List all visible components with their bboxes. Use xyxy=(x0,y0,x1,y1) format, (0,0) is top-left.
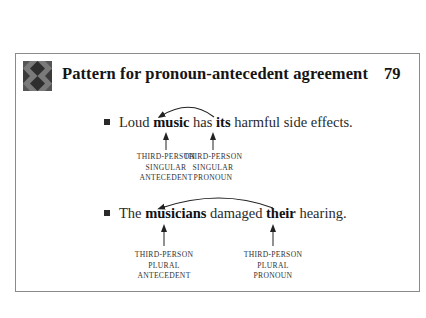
label-line: PRONOUN xyxy=(228,271,318,282)
label-line: PLURAL xyxy=(119,261,209,272)
pronoun-word: its xyxy=(216,114,231,130)
example-sentence-1: Loud music has its harmful side effects. xyxy=(104,114,353,131)
pronoun-label-1: THIRD-PERSON SINGULAR PRONOUN xyxy=(168,152,258,184)
label-line: THIRD-PERSON xyxy=(228,250,318,261)
argyle-pattern-icon xyxy=(23,61,52,91)
sentence-text: hearing. xyxy=(296,205,347,221)
antecedent-word: music xyxy=(153,114,189,130)
label-line: ANTECEDENT xyxy=(119,271,209,282)
label-line: THIRD-PERSON xyxy=(119,250,209,261)
sentence-text: Loud xyxy=(119,114,153,130)
label-line: SINGULAR xyxy=(168,163,258,174)
square-bullet-icon xyxy=(104,119,110,125)
page-title: Pattern for pronoun-antecedent agreement xyxy=(62,64,368,84)
sentence-text: damaged xyxy=(206,205,266,221)
label-line: PLURAL xyxy=(228,261,318,272)
pronoun-label-2: THIRD-PERSON PLURAL PRONOUN xyxy=(228,250,318,282)
sentence-text: harmful side effects. xyxy=(231,114,353,130)
antecedent-label-2: THIRD-PERSON PLURAL ANTECEDENT xyxy=(119,250,209,282)
label-line: THIRD-PERSON xyxy=(168,152,258,163)
label-line: PRONOUN xyxy=(168,173,258,184)
sentence-text: has xyxy=(189,114,216,130)
pronoun-word: their xyxy=(266,205,296,221)
square-bullet-icon xyxy=(104,210,110,216)
example-sentence-2: The musicians damaged their hearing. xyxy=(104,205,347,222)
antecedent-word: musicians xyxy=(145,205,206,221)
page-number: 79 xyxy=(384,64,401,84)
sentence-text: The xyxy=(119,205,145,221)
